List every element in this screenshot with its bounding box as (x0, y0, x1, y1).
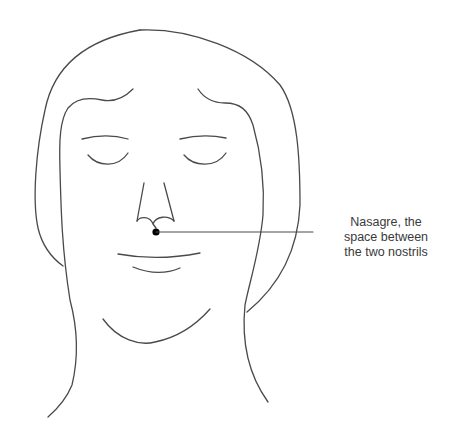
eyebrow-right (180, 136, 226, 139)
annotation-line-1: Nasagre, the (316, 215, 456, 230)
annotation-line-3: the two nostrils (316, 245, 456, 260)
hairline-left (48, 89, 133, 417)
nose-right-side (164, 183, 174, 221)
nostrils (137, 217, 174, 228)
hair-outer-right (140, 30, 300, 312)
annotation-line-2: space between (316, 230, 456, 245)
chin-line (103, 309, 210, 343)
lower-lip-line (133, 267, 180, 272)
hair-outer-left (35, 30, 140, 266)
eye-left (88, 153, 128, 164)
nose-left-side (137, 183, 144, 221)
annotation-label: Nasagre, the space between the two nostr… (316, 215, 456, 260)
eyebrow-left (82, 136, 128, 139)
face-diagram: Nasagre, the space between the two nostr… (0, 0, 457, 436)
eye-right (184, 153, 226, 164)
upper-lip-line (118, 253, 200, 257)
